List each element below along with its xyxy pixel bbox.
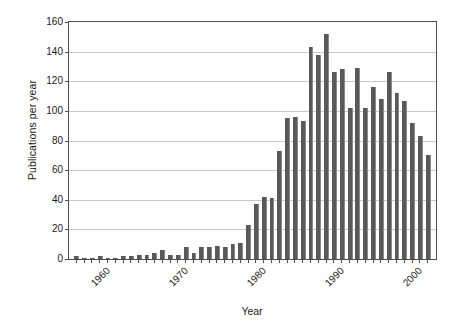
bar — [418, 136, 423, 259]
x-tick-mark — [154, 259, 155, 263]
bar — [395, 93, 400, 259]
x-tick-label: 1960 — [88, 265, 112, 289]
y-tick-mark — [65, 22, 69, 23]
bar — [309, 47, 314, 259]
bar — [215, 246, 220, 259]
bar — [301, 121, 306, 259]
bar — [410, 123, 415, 259]
x-tick-mark — [170, 259, 171, 263]
x-tick-mark — [84, 259, 85, 263]
bar — [293, 117, 298, 259]
x-tick-mark — [146, 259, 147, 263]
bar — [340, 69, 345, 259]
x-tick-mark — [419, 259, 420, 263]
x-axis-title: Year — [68, 305, 436, 317]
x-tick-mark — [404, 259, 405, 263]
x-tick-mark — [279, 259, 280, 263]
x-tick-mark — [412, 259, 413, 263]
y-tick-label: 120 — [35, 75, 63, 86]
x-tick-mark — [107, 259, 108, 263]
x-tick-mark — [177, 259, 178, 263]
x-tick-mark — [357, 259, 358, 263]
x-tick-mark — [271, 259, 272, 263]
x-tick-mark — [99, 259, 100, 263]
x-tick-mark — [318, 259, 319, 263]
x-tick-mark — [115, 259, 116, 263]
x-tick-label: 1990 — [323, 265, 347, 289]
y-tick-mark — [65, 141, 69, 142]
x-tick-mark — [287, 259, 288, 263]
bar — [246, 225, 251, 259]
x-tick-mark — [310, 259, 311, 263]
bar — [231, 244, 236, 259]
bar — [426, 155, 431, 259]
bar — [254, 204, 259, 259]
bar — [379, 99, 384, 259]
x-tick-mark — [326, 259, 327, 263]
x-tick-mark — [216, 259, 217, 263]
bar — [262, 197, 267, 259]
y-tick-label: 100 — [35, 104, 63, 115]
plot-area — [68, 21, 437, 260]
y-tick-mark — [65, 259, 69, 260]
bar — [238, 243, 243, 259]
x-tick-mark — [240, 259, 241, 263]
bar — [199, 247, 204, 259]
bar — [363, 108, 368, 259]
y-tick-label: 160 — [35, 16, 63, 27]
bar — [160, 250, 165, 259]
y-tick-mark — [65, 81, 69, 82]
y-tick-mark — [65, 170, 69, 171]
bar — [402, 101, 407, 259]
y-tick-label: 60 — [35, 164, 63, 175]
x-tick-label: 2000 — [401, 265, 425, 289]
x-tick-mark — [138, 259, 139, 263]
x-tick-mark — [193, 259, 194, 263]
x-tick-mark — [201, 259, 202, 263]
x-tick-mark — [248, 259, 249, 263]
x-tick-mark — [185, 259, 186, 263]
x-tick-label: 1980 — [244, 265, 268, 289]
x-tick-mark — [130, 259, 131, 263]
x-tick-mark — [365, 259, 366, 263]
y-tick-label: 20 — [35, 223, 63, 234]
x-tick-mark — [162, 259, 163, 263]
bar — [355, 68, 360, 259]
y-tick-label: 0 — [35, 253, 63, 264]
x-tick-mark — [232, 259, 233, 263]
x-tick-mark — [224, 259, 225, 263]
x-tick-mark — [209, 259, 210, 263]
y-tick-mark — [65, 200, 69, 201]
y-tick-mark — [65, 111, 69, 112]
x-tick-mark — [388, 259, 389, 263]
x-tick-mark — [333, 259, 334, 263]
y-tick-label: 40 — [35, 193, 63, 204]
bar — [332, 72, 337, 259]
publications-per-year-bar-chart: Publications per year Year 0204060801001… — [0, 0, 455, 328]
bar — [277, 151, 282, 259]
x-tick-mark — [380, 259, 381, 263]
bar — [348, 108, 353, 259]
bar — [285, 118, 290, 259]
bar — [371, 87, 376, 259]
bar — [387, 72, 392, 259]
x-tick-mark — [91, 259, 92, 263]
bar — [223, 247, 228, 259]
x-tick-mark — [76, 259, 77, 263]
x-tick-mark — [373, 259, 374, 263]
x-tick-mark — [255, 259, 256, 263]
x-tick-mark — [349, 259, 350, 263]
x-tick-mark — [294, 259, 295, 263]
x-tick-mark — [341, 259, 342, 263]
bar — [270, 198, 275, 259]
x-tick-mark — [396, 259, 397, 263]
bar — [324, 34, 329, 259]
y-tick-mark — [65, 229, 69, 230]
x-tick-mark — [123, 259, 124, 263]
y-tick-label: 80 — [35, 134, 63, 145]
bar — [316, 55, 321, 259]
y-tick-mark — [65, 52, 69, 53]
bar — [184, 247, 189, 259]
x-tick-mark — [427, 259, 428, 263]
bars-group — [69, 22, 436, 259]
